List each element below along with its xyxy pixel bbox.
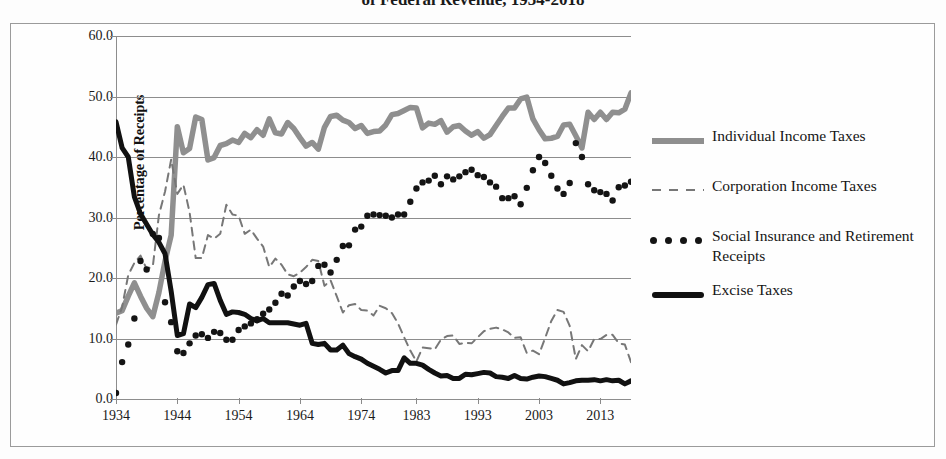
legend-item[interactable]: Corporation Income Taxes — [650, 176, 925, 220]
x-axis-tick-mark — [116, 398, 117, 404]
legend-item[interactable]: Social Insurance and Retirement Receipts — [650, 226, 925, 274]
legend-item-label: Excise Taxes — [712, 280, 927, 300]
x-axis-tick-mark — [478, 398, 479, 404]
legend-dot-icon — [695, 237, 702, 244]
plot-area: Percentage of Receipts 0.010.020.030.040… — [106, 36, 631, 431]
legend-marker-dotted-black-icon — [650, 233, 706, 247]
y-axis-tick-mark — [110, 97, 116, 98]
y-axis-tick-mark — [110, 218, 116, 219]
legend-item[interactable]: Excise Taxes — [650, 280, 925, 304]
legend-dot-icon — [650, 237, 657, 244]
y-axis-tick-label: 0.0 — [53, 391, 113, 407]
y-axis-tick-label: 60.0 — [53, 28, 113, 44]
legend-line-icon — [652, 292, 704, 298]
series-corporation-income — [116, 159, 631, 362]
y-axis-tick-mark — [110, 36, 116, 37]
legend-marker-solid-black-icon — [650, 287, 706, 301]
x-axis-tick-label: 2013 — [565, 408, 635, 424]
y-axis-tick-label: 20.0 — [53, 270, 113, 286]
y-axis-tick-mark — [110, 157, 116, 158]
x-axis-tick-label: 1983 — [381, 408, 451, 424]
legend-marker-dashed-gray-icon — [650, 183, 706, 197]
series-canvas — [116, 36, 631, 399]
y-axis-tick-label: 30.0 — [53, 210, 113, 226]
legend-line-icon — [652, 189, 704, 191]
legend-item-label: Corporation Income Taxes — [712, 176, 927, 196]
y-axis-tick-mark — [110, 278, 116, 279]
x-axis-tick-mark — [300, 398, 301, 404]
x-axis-tick-label: 1934 — [81, 408, 151, 424]
series-social-insurance — [116, 140, 631, 396]
legend-line-icon — [652, 138, 704, 144]
x-axis-tick-mark — [600, 398, 601, 404]
x-axis-tick-mark — [361, 398, 362, 404]
x-axis-tick-mark — [416, 398, 417, 404]
x-axis-tick-mark — [539, 398, 540, 404]
legend-dot-icon — [680, 237, 687, 244]
gridline-y — [116, 399, 631, 400]
x-axis-tick-label: 1993 — [443, 408, 513, 424]
legend-dot-icon — [665, 237, 672, 244]
y-axis-tick-label: 10.0 — [53, 331, 113, 347]
legend-item-label: Individual Income Taxes — [712, 126, 927, 146]
chart-legend: Individual Income TaxesCorporation Incom… — [650, 126, 925, 310]
y-axis-tick-mark — [110, 339, 116, 340]
chart-title: of Federal Revenue, 1934-2018 — [0, 0, 946, 12]
x-axis-tick-mark — [239, 398, 240, 404]
legend-item-label: Social Insurance and Retirement Receipts — [712, 226, 927, 266]
x-axis-tick-label: 1964 — [265, 408, 335, 424]
series-excise-taxes — [116, 122, 631, 384]
x-axis-tick-label: 1944 — [142, 408, 212, 424]
chart-figure: of Federal Revenue, 1934-2018 Percentage… — [0, 0, 946, 459]
x-axis-tick-label: 1954 — [204, 408, 274, 424]
y-axis-tick-label: 40.0 — [53, 149, 113, 165]
series-individual-income — [116, 93, 631, 317]
legend-item[interactable]: Individual Income Taxes — [650, 126, 925, 170]
x-axis-tick-mark — [177, 398, 178, 404]
y-axis-tick-label: 50.0 — [53, 89, 113, 105]
legend-marker-solid-gray-icon — [650, 133, 706, 147]
x-axis-tick-label: 2003 — [504, 408, 574, 424]
